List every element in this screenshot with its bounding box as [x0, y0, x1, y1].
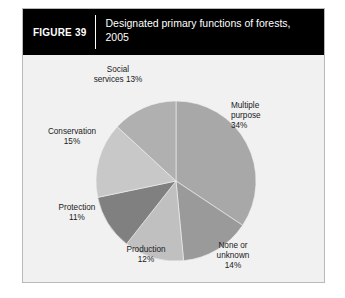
pie-chart-area: Social services 13% Multiple purpose 34%… [23, 55, 324, 282]
figure-title: Designated primary functions of forests,… [96, 9, 324, 55]
pie-label-protection: Protection 11% [41, 203, 113, 223]
figure-container: FIGURE 39 Designated primary functions o… [22, 8, 325, 283]
figure-header: FIGURE 39 Designated primary functions o… [23, 9, 324, 55]
pie-label-social-services: Social services 13% [79, 65, 157, 85]
pie-label-conservation: Conservation 15% [31, 127, 113, 147]
pie-label-production: Production 12% [109, 245, 183, 265]
pie-label-multiple-purpose: Multiple purpose 34% [231, 101, 293, 132]
figure-number-label: FIGURE 39 [23, 9, 95, 55]
pie-label-none-or-unknown: None or unknown 14% [197, 241, 269, 272]
